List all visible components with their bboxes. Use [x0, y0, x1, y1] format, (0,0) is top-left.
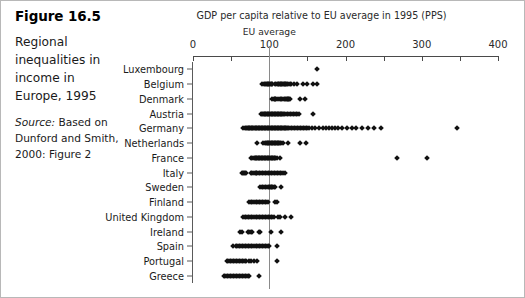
y-axis-tick [187, 275, 192, 276]
category-label-luxembourg: Luxembourg [123, 64, 184, 75]
chart-row: Finland [119, 195, 524, 210]
y-axis-tick [187, 246, 192, 247]
data-point [311, 111, 317, 117]
figure-description: Regional inequalities in income in Europ… [15, 33, 119, 105]
data-point [250, 229, 256, 235]
chart-row: Denmark [119, 92, 524, 107]
x-axis-tick [193, 56, 194, 61]
category-label-germany: Germany [139, 123, 184, 134]
chart-container: GDP per capita relative to EU average in… [119, 1, 524, 297]
x-axis-tick-label: 200 [336, 39, 355, 50]
category-label-denmark: Denmark [139, 93, 184, 104]
y-axis-tick [187, 202, 192, 203]
data-point [268, 229, 274, 235]
data-point [296, 111, 302, 117]
data-point [254, 140, 260, 146]
data-point [288, 214, 294, 220]
y-axis-tick [187, 98, 192, 99]
data-point [279, 229, 285, 235]
category-label-greece: Greece [149, 270, 184, 281]
data-point [424, 155, 430, 161]
y-axis-tick [187, 128, 192, 129]
data-point [256, 273, 262, 279]
figure-page: Figure 16.5 Regional inequalities in inc… [0, 0, 525, 298]
data-point [314, 81, 320, 87]
data-point [257, 229, 263, 235]
chart-row: Netherlands [119, 136, 524, 151]
x-axis-tick [231, 56, 232, 61]
chart-plot-area: 0100200300400EU averageLuxembourgBelgium… [119, 1, 524, 297]
chart-row: Luxembourg [119, 62, 524, 77]
data-point [359, 125, 365, 131]
y-axis-tick [187, 261, 192, 262]
data-point [247, 273, 253, 279]
y-axis-tick [187, 69, 192, 70]
data-point [274, 243, 280, 249]
source-label: Source: [15, 116, 55, 128]
figure-number: Figure 16.5 [15, 9, 119, 25]
data-point [378, 125, 384, 131]
x-axis-tick-label: 400 [488, 39, 507, 50]
y-axis-tick [187, 84, 192, 85]
x-axis-tick [384, 56, 385, 61]
category-label-portugal: Portugal [143, 256, 184, 267]
x-axis-tick-label: 300 [412, 39, 431, 50]
category-label-ireland: Ireland [150, 226, 184, 237]
data-point [372, 125, 378, 131]
data-point [394, 155, 400, 161]
y-axis-tick [187, 187, 192, 188]
data-point [277, 155, 283, 161]
x-axis-tick [498, 56, 499, 61]
data-point [314, 66, 320, 72]
x-axis-tick [346, 56, 347, 61]
chart-row: France [119, 151, 524, 166]
y-axis-tick [187, 216, 192, 217]
category-label-austria: Austria [149, 108, 184, 119]
y-axis-tick [187, 157, 192, 158]
chart-row: Italy [119, 165, 524, 180]
chart-row: Portugal [119, 254, 524, 269]
y-axis-tick [187, 113, 192, 114]
chart-row: Spain [119, 239, 524, 254]
category-label-france: France [151, 152, 184, 163]
data-point [366, 125, 372, 131]
chart-row: Belgium [119, 77, 524, 92]
y-axis-tick [187, 231, 192, 232]
data-point [302, 96, 308, 102]
category-label-sweden: Sweden [145, 182, 184, 193]
x-axis-tick [460, 56, 461, 61]
category-label-belgium: Belgium [144, 79, 184, 90]
y-axis-tick [187, 172, 192, 173]
data-point [285, 140, 291, 146]
x-axis-tick-label: 0 [190, 39, 196, 50]
x-axis-tick [307, 56, 308, 61]
data-point [353, 125, 359, 131]
y-axis-tick [187, 143, 192, 144]
category-label-finland: Finland [149, 197, 184, 208]
category-label-united-kingdom: United Kingdom [105, 211, 184, 222]
data-point [303, 140, 309, 146]
chart-row: Greece [119, 269, 524, 284]
chart-row: Germany [119, 121, 524, 136]
chart-row: Austria [119, 106, 524, 121]
chart-row: Ireland [119, 224, 524, 239]
chart-row: Sweden [119, 180, 524, 195]
figure-caption-column: Figure 16.5 Regional inequalities in inc… [15, 9, 119, 162]
figure-source: Source: Based on Dunford and Smith, 2000… [15, 114, 119, 162]
category-label-spain: Spain [157, 241, 184, 252]
x-axis-tick [422, 56, 423, 61]
data-point [274, 258, 280, 264]
chart-row: United Kingdom [119, 210, 524, 225]
data-point [454, 125, 460, 131]
data-point [282, 214, 288, 220]
eu-average-label: EU average [243, 26, 296, 37]
data-point [279, 184, 285, 190]
data-point [297, 140, 303, 146]
data-point [254, 258, 260, 264]
category-label-italy: Italy [163, 167, 184, 178]
category-label-netherlands: Netherlands [124, 138, 184, 149]
